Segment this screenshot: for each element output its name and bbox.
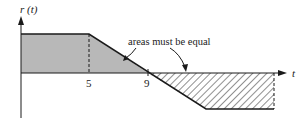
- annotation-text: areas must be equal: [128, 36, 211, 47]
- tick-label-5: 5: [86, 77, 92, 89]
- annotation-arrowhead-right-icon: [182, 64, 188, 72]
- ramp-signal-diagram: r (t) t 5 9 areas must be equal: [0, 0, 303, 125]
- x-axis-arrow-icon: [278, 70, 287, 76]
- y-axis-arrow-icon: [18, 16, 24, 25]
- tick-label-9: 9: [144, 77, 150, 89]
- negative-area-region: [148, 73, 274, 109]
- annotation-arrow-left: [126, 48, 136, 58]
- annotation-arrow-right: [170, 48, 185, 67]
- y-axis-label: r (t): [20, 3, 38, 16]
- x-axis-label: t: [292, 67, 296, 79]
